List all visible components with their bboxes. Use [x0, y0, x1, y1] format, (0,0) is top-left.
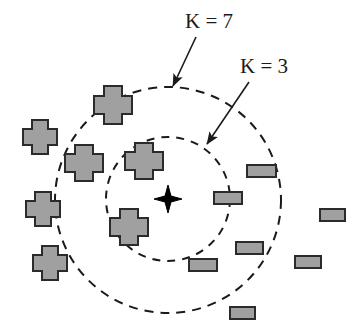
knn-diagram-svg: K = 7 K = 3: [0, 0, 362, 332]
rectangle-marker: [320, 209, 345, 221]
rectangle-marker: [214, 192, 242, 204]
rectangle-marker: [247, 165, 276, 177]
knn-figure: K = 7 K = 3: [0, 0, 362, 332]
rectangle-marker: [230, 307, 255, 319]
rectangle-marker: [236, 242, 263, 254]
label-k7: K = 7: [185, 9, 233, 33]
rectangle-marker: [295, 256, 321, 268]
label-k3: K = 3: [240, 54, 288, 78]
figure-background: [0, 0, 362, 332]
rectangle-marker: [189, 259, 217, 271]
